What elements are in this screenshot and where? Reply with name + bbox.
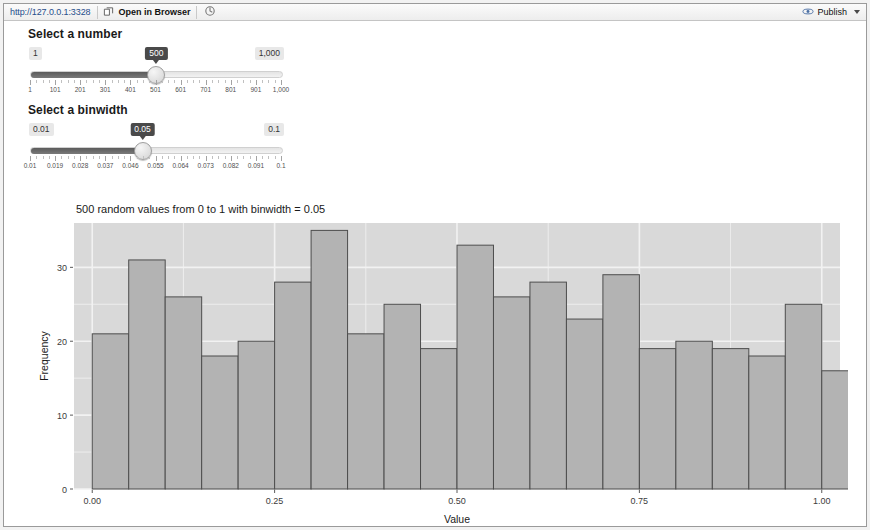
slider-binwidth[interactable]: 0.01 0.1 0.05 0.010.0190.0280.0370.0460.… [26, 123, 287, 171]
histogram-bar [566, 319, 602, 489]
slider-tick-label: 301 [100, 86, 111, 93]
slider-number-fill [31, 72, 156, 78]
viewer-window: http://127.0.0.1:3328 Open in Browser [3, 3, 867, 527]
histogram-bar [493, 297, 529, 489]
slider-minor-tick [112, 80, 113, 83]
publish-button[interactable]: Publish [802, 4, 862, 20]
slider-tick [130, 156, 131, 161]
slider-number[interactable]: 1 1,000 500 1101201301401501601701801901… [26, 47, 287, 95]
publish-label: Publish [817, 7, 847, 17]
slider-tick [281, 156, 282, 161]
slider-minor-tick [162, 80, 163, 83]
slider-minor-tick [149, 156, 150, 159]
slider-tick [30, 156, 31, 161]
slider-tick [181, 80, 182, 85]
slider-minor-tick [36, 80, 37, 83]
slider-minor-tick [74, 156, 75, 159]
select-a-number-title: Select a number [28, 27, 866, 41]
slider-tick [55, 156, 56, 161]
viewer-toolbar: http://127.0.0.1:3328 Open in Browser [4, 4, 866, 21]
histogram-bar [275, 282, 311, 489]
slider-tick [55, 80, 56, 85]
chevron-down-icon[interactable] [854, 10, 860, 14]
slider-tick-label: 701 [200, 86, 211, 93]
slider-minor-tick [124, 156, 125, 159]
x-tick-label: 0.75 [631, 496, 649, 506]
slider-minor-tick [43, 156, 44, 159]
slider-minor-tick [143, 80, 144, 83]
slider-minor-tick [162, 156, 163, 159]
slider-minor-tick [193, 80, 194, 83]
slider-minor-tick [243, 80, 244, 83]
y-tick-label: 20 [57, 337, 67, 347]
histogram-bar [129, 260, 165, 489]
slider-tick-label: 401 [125, 86, 136, 93]
histogram-bar [421, 349, 457, 489]
slider-tick [206, 80, 207, 85]
slider-number-max-label: 1,000 [255, 47, 284, 60]
slider-tick-label: 901 [250, 86, 261, 93]
slider-tick [256, 80, 257, 85]
y-tick-label: 30 [57, 263, 67, 273]
slider-minor-tick [124, 80, 125, 83]
slider-minor-tick [112, 156, 113, 159]
slider-minor-tick [212, 156, 213, 159]
histogram-svg: 500 random values from 0 to 1 with binwi… [36, 199, 848, 529]
slider-tick [80, 80, 81, 85]
slider-tick-label: 0.055 [147, 162, 163, 169]
x-tick-label: 0.00 [83, 496, 101, 506]
slider-minor-tick [168, 156, 169, 159]
refresh-button[interactable] [197, 4, 223, 20]
slider-number-min-label: 1 [29, 47, 42, 60]
histogram-bar [712, 349, 748, 489]
slider-minor-tick [68, 156, 69, 159]
histogram-bar [457, 245, 493, 489]
slider-minor-tick [74, 80, 75, 83]
slider-number-grid: 11012013014015016017018019011,000 [30, 80, 283, 96]
slider-minor-tick [187, 156, 188, 159]
x-tick-label: 1.00 [813, 496, 831, 506]
slider-tick [80, 156, 81, 161]
slider-tick [281, 80, 282, 85]
slider-tick-label: 101 [50, 86, 61, 93]
slider-minor-tick [262, 156, 263, 159]
slider-tick [130, 80, 131, 85]
slider-minor-tick [199, 156, 200, 159]
histogram-bar [785, 304, 821, 489]
slider-minor-tick [99, 156, 100, 159]
slider-tick-label: 0.064 [172, 162, 188, 169]
slider-minor-tick [49, 80, 50, 83]
slider-tick [156, 80, 157, 85]
histogram-bar [749, 356, 785, 489]
slider-minor-tick [212, 80, 213, 83]
viewer-url[interactable]: http://127.0.0.1:3328 [4, 7, 97, 17]
histogram-bar [822, 371, 848, 489]
open-in-browser-label: Open in Browser [118, 7, 190, 17]
slider-number-value-label: 500 [145, 47, 167, 60]
slider-tick [181, 156, 182, 161]
slider-minor-tick [225, 156, 226, 159]
slider-minor-tick [36, 156, 37, 159]
slider-tick-label: 0.028 [72, 162, 88, 169]
slider-tick [231, 156, 232, 161]
slider-minor-tick [250, 80, 251, 83]
slider-tick [231, 80, 232, 85]
slider-tick [30, 80, 31, 85]
shiny-app-body: Select a number 1 1,000 500 110120130140… [4, 21, 866, 526]
select-a-binwidth-title: Select a binwidth [28, 103, 866, 117]
slider-minor-tick [237, 80, 238, 83]
slider-minor-tick [237, 156, 238, 159]
slider-binwidth-max-label: 0.1 [264, 123, 284, 136]
histogram-plot: 500 random values from 0 to 1 with binwi… [36, 199, 848, 314]
slider-minor-tick [118, 80, 119, 83]
histogram-bar [92, 334, 128, 489]
slider-minor-tick [118, 156, 119, 159]
slider-minor-tick [61, 156, 62, 159]
slider-tick-label: 601 [175, 86, 186, 93]
slider-minor-tick [268, 156, 269, 159]
slider-minor-tick [137, 156, 138, 159]
slider-minor-tick [86, 156, 87, 159]
slider-tick [156, 156, 157, 161]
open-in-browser-button[interactable]: Open in Browser [98, 4, 195, 20]
slider-minor-tick [225, 80, 226, 83]
